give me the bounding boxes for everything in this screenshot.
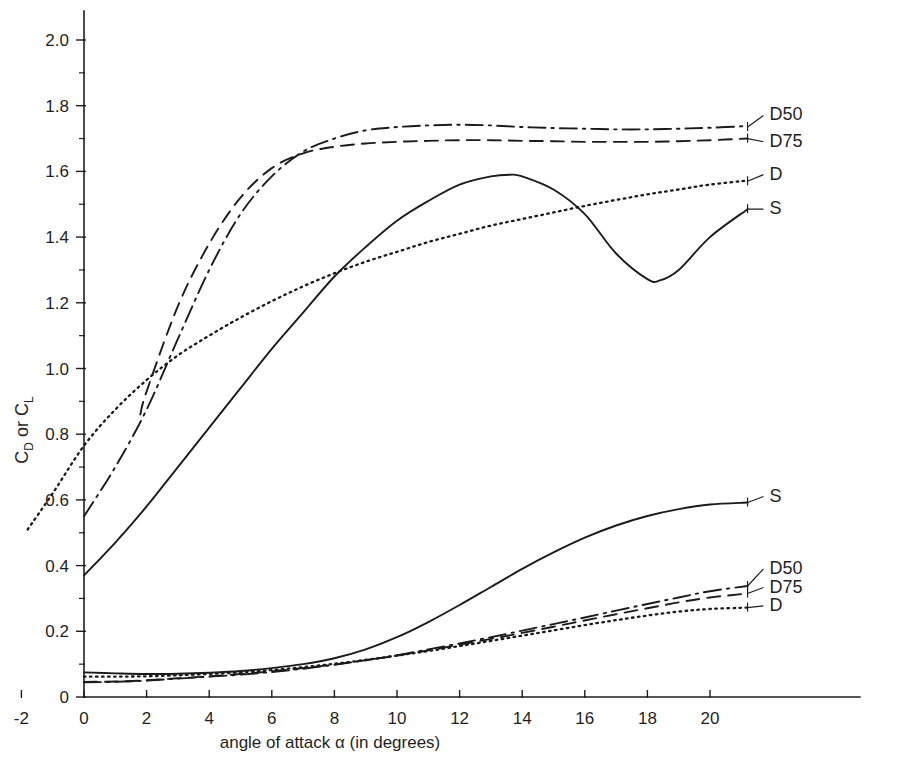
y-tick-label: 2.0 — [45, 31, 69, 50]
leader-drag-D — [748, 606, 764, 608]
leader-lift-D50 — [748, 115, 764, 127]
y-axis-title-sub2: L — [22, 396, 36, 403]
curve-drag-D75 — [84, 594, 748, 682]
curve-lift-D — [28, 181, 748, 530]
leader-drag-S — [748, 497, 764, 503]
y-tick-label: 1.0 — [45, 360, 69, 379]
y-tick-label: 1.4 — [45, 228, 69, 247]
y-tick-label: 0.2 — [45, 622, 69, 641]
x-tick-label: 0 — [79, 709, 88, 728]
leader-lift-D75 — [748, 139, 764, 142]
curve-drag-D — [84, 608, 748, 677]
y-tick-label: 0 — [60, 688, 69, 707]
x-axis-title: angle of attack α (in degrees) — [220, 733, 441, 752]
x-tick-label: 6 — [267, 709, 276, 728]
series-leader-lines — [748, 115, 764, 611]
axes — [84, 11, 860, 697]
x-tick-label: -2 — [14, 709, 29, 728]
y-tick-label: 1.2 — [45, 294, 69, 313]
series-label-drag-D50: D50 — [769, 558, 802, 578]
leader-lift-D — [748, 175, 764, 182]
curve-lift-D50 — [84, 125, 748, 517]
series-labels: SDD75D50SD50D75D — [769, 104, 802, 614]
series-label-lift-D50: D50 — [769, 104, 802, 124]
series-label-drag-D: D — [769, 595, 782, 615]
curve-drag-S — [84, 503, 748, 674]
x-tick-label: 12 — [450, 709, 469, 728]
curve-lift-D75 — [140, 139, 747, 415]
series-label-lift-D: D — [769, 164, 782, 184]
y-tick-label: 1.6 — [45, 162, 69, 181]
x-tick-label: 8 — [330, 709, 339, 728]
x-tick-label: 16 — [575, 709, 594, 728]
chart-canvas: -202468101214161820 00.20.40.60.81.01.21… — [0, 0, 912, 771]
curve-drag-D50 — [84, 586, 748, 682]
y-axis-title-c2: C — [12, 403, 32, 416]
y-tick-labels: 00.20.40.60.81.01.21.41.61.82.0 — [45, 31, 69, 707]
y-axis-title-sub1: D — [22, 442, 36, 451]
x-tick-label: 4 — [204, 709, 213, 728]
series-label-drag-D75: D75 — [769, 577, 802, 597]
series-label-lift-D75: D75 — [769, 131, 802, 151]
y-axis-title-text: CD or CL — [12, 396, 36, 464]
axis-ticks — [21, 40, 710, 698]
y-axis-title: CD or CL — [12, 396, 36, 464]
x-tick-label: 20 — [701, 709, 720, 728]
x-tick-label: 2 — [142, 709, 151, 728]
x-tick-labels: -202468101214161820 — [14, 709, 720, 728]
y-axis-title-mid: or — [12, 416, 32, 442]
y-axis-title-c1: C — [12, 451, 32, 464]
x-tick-label: 14 — [513, 709, 532, 728]
series-label-lift-S: S — [769, 198, 781, 218]
x-tick-label: 10 — [388, 709, 407, 728]
leader-drag-D50 — [748, 569, 764, 586]
data-curves — [28, 125, 748, 682]
y-tick-label: 0.4 — [45, 557, 69, 576]
y-tick-label: 0.8 — [45, 425, 69, 444]
series-label-drag-S: S — [769, 486, 781, 506]
leader-drag-D75 — [748, 588, 764, 594]
chart-figure: -202468101214161820 00.20.40.60.81.01.21… — [0, 0, 912, 771]
x-tick-label: 18 — [638, 709, 657, 728]
y-tick-label: 1.8 — [45, 97, 69, 116]
